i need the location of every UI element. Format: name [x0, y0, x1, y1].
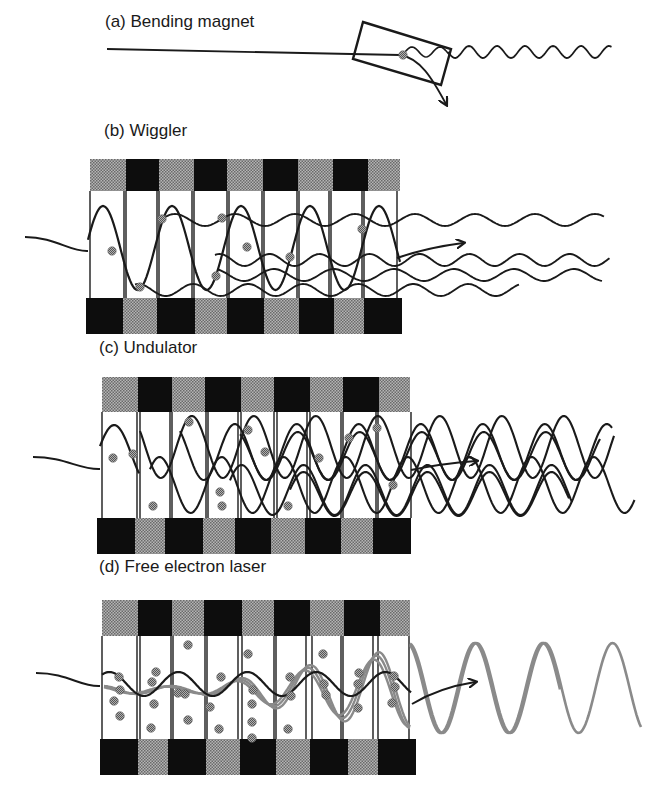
electron-icon	[287, 692, 296, 701]
top-magnet-light-block	[241, 377, 274, 412]
bottom-magnet-light-block	[138, 739, 168, 775]
incoming-beam	[33, 457, 100, 469]
electron-icon	[315, 454, 323, 462]
bottom-magnet-light-block	[264, 298, 299, 334]
bottom-magnet-dark-block	[299, 298, 334, 334]
incoming-beam	[25, 237, 88, 251]
electron-icon	[248, 734, 257, 743]
electron-icon	[149, 502, 157, 510]
bottom-magnet-dark-block	[100, 739, 138, 775]
top-magnet-light-block	[172, 600, 204, 636]
bottom-magnet-dark-block	[97, 518, 135, 554]
electron-icon	[150, 700, 159, 709]
electron-icon	[388, 699, 397, 708]
electron-icon	[354, 680, 363, 689]
electron-icon	[249, 686, 258, 695]
electron-icon	[261, 448, 269, 456]
radiation-direction-arrow	[412, 682, 475, 704]
panel-free-electron-laser	[36, 600, 641, 775]
bottom-magnet-dark-block	[235, 518, 271, 554]
electron-icon	[129, 450, 137, 458]
top-magnet-dark-block	[138, 600, 172, 636]
electron-icon	[206, 703, 215, 712]
bottom-magnet-dark-block	[373, 518, 411, 554]
electron-icon	[116, 712, 125, 721]
electron-icon	[152, 668, 161, 677]
top-magnet-light-block	[242, 600, 274, 636]
electron-icon	[110, 697, 119, 706]
bottom-magnet-light-block	[341, 518, 373, 554]
bottom-magnet-light-block	[123, 298, 157, 334]
bottom-magnet-dark-block	[86, 298, 123, 334]
top-magnet-light-block	[379, 377, 410, 412]
bottom-magnet-dark-block	[157, 298, 195, 334]
bottom-magnet-light-block	[195, 298, 227, 334]
electron-icon	[243, 243, 251, 251]
electron-icon	[218, 502, 226, 510]
top-magnet-dark-block	[138, 377, 172, 412]
top-magnet-light-block	[90, 159, 126, 191]
electron-icon	[116, 686, 125, 695]
top-magnet-light-block	[310, 377, 343, 412]
panel-undulator	[33, 377, 635, 554]
electron-icon	[320, 680, 329, 689]
electron-icon	[319, 650, 328, 659]
electron-icon	[181, 690, 190, 699]
electron-icon	[212, 272, 220, 280]
bottom-magnet-light-block	[334, 298, 364, 334]
electron-icon	[184, 716, 193, 725]
bottom-magnet-light-block	[348, 739, 378, 775]
electron-icon	[390, 672, 399, 681]
top-magnet-light-block	[102, 600, 138, 636]
electron-icon	[215, 725, 224, 734]
electron-icon	[147, 724, 156, 733]
top-magnet-light-block	[159, 159, 194, 191]
electron-icon	[284, 502, 292, 510]
radiation-direction-arrow	[397, 243, 463, 258]
electron-icon	[284, 725, 293, 734]
electron-icon	[216, 488, 224, 496]
top-magnet-dark-block	[274, 377, 310, 412]
bottom-magnet-light-block	[271, 518, 305, 554]
bottom-magnet-light-block	[276, 739, 310, 775]
top-magnet-dark-block	[343, 377, 379, 412]
electron-icon	[373, 424, 381, 432]
emitted-radiation-wave	[448, 46, 612, 58]
bottom-magnet-light-block	[203, 518, 235, 554]
electron-icon	[354, 704, 363, 713]
synchrotron-sources-figure: (a) Bending magnet (b) Wiggler (c) Undul…	[0, 0, 659, 785]
panel-wiggler	[25, 159, 610, 334]
top-magnet-light-block	[380, 600, 410, 636]
electron-icon	[399, 51, 407, 59]
top-magnet-dark-block	[194, 159, 227, 191]
electron-icon	[108, 247, 116, 255]
electron-icon	[248, 700, 257, 709]
top-magnet-light-block	[368, 159, 400, 191]
electron-icon	[389, 481, 397, 489]
electron-icon	[286, 253, 294, 261]
electron-icon	[218, 214, 226, 222]
electron-icon	[244, 426, 252, 434]
radiation-inside-box	[405, 47, 450, 57]
bottom-magnet-dark-block	[227, 298, 264, 334]
bottom-magnet-dark-block	[364, 298, 402, 334]
electron-icon	[286, 673, 295, 682]
electron-icon	[345, 434, 353, 442]
electron-icon	[217, 673, 226, 682]
top-magnet-light-block	[102, 377, 138, 412]
electron-icon	[109, 454, 117, 462]
electron-icon	[391, 683, 400, 692]
electron-icon	[115, 673, 124, 682]
bottom-magnet-light-block	[206, 739, 240, 775]
bottom-magnet-dark-block	[165, 518, 203, 554]
top-magnet-light-block	[172, 377, 205, 412]
top-magnet-dark-block	[126, 159, 159, 191]
top-magnet-dark-block	[205, 377, 241, 412]
electron-icon	[185, 418, 193, 426]
bottom-magnet-dark-block	[305, 518, 341, 554]
electron-icon	[184, 641, 193, 650]
electron-icon	[358, 225, 366, 233]
electron-icon	[322, 691, 331, 700]
top-magnet-dark-block	[204, 600, 242, 636]
top-magnet-dark-block	[333, 159, 368, 191]
